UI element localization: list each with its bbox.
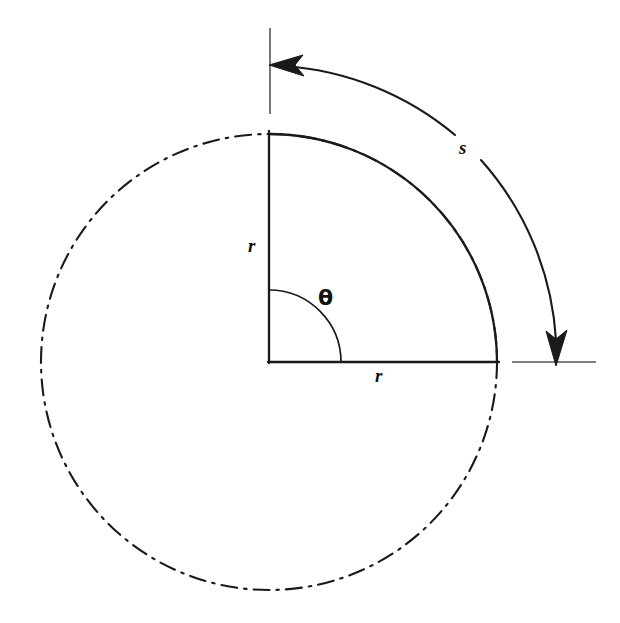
outer-arc-upper-segment: [283, 66, 455, 135]
label-arc-length-s: s: [459, 138, 466, 157]
label-radius-vertical: r: [248, 236, 255, 255]
label-radius-horizontal: r: [375, 366, 382, 385]
circle-sector-diagram: [0, 0, 620, 623]
label-angle-theta: θ: [318, 287, 333, 309]
arrowhead-left-icon: [269, 55, 304, 76]
figure-canvas: r r θ s: [0, 0, 620, 623]
quarter-arc: [269, 134, 497, 362]
